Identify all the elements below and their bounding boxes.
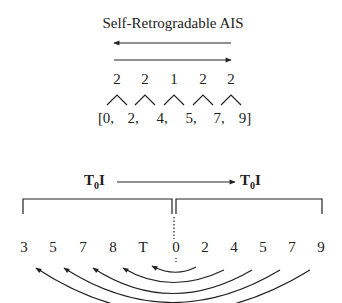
mapping-arc — [36, 268, 310, 303]
mapping-arc — [123, 268, 224, 283]
caret-icon — [221, 95, 241, 105]
caret-icon — [193, 95, 213, 105]
caret-icon — [164, 95, 184, 105]
bracket-left — [23, 199, 172, 214]
mapping-arc — [152, 266, 196, 272]
bracket-right — [176, 199, 322, 214]
diagram-graphics — [0, 0, 342, 303]
caret-icon — [107, 95, 127, 105]
caret-icon — [135, 95, 155, 105]
